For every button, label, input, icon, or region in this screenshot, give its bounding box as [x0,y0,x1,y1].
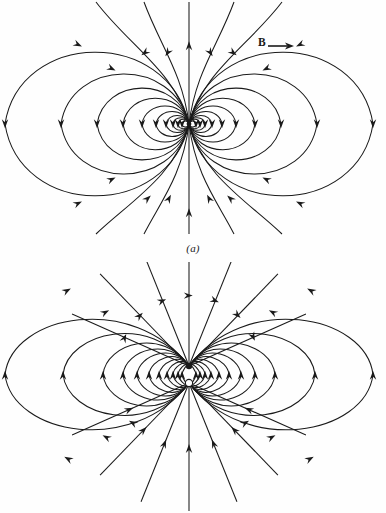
arrowhead [208,371,214,380]
arrowhead [94,119,100,128]
arrowhead [164,371,170,380]
electric-dipole-charges [185,363,192,387]
field-loop [189,74,317,174]
arrowhead [64,457,73,464]
arrowhead [106,64,115,71]
arrowhead [216,371,222,380]
arrowhead [142,195,151,203]
arrowhead [370,371,376,380]
arrowhead [163,119,169,128]
magnetic-dipole-field-diagram [0,0,386,262]
arrowhead [73,201,82,208]
magnetic-field-lines [5,2,373,234]
radial-field-line [100,274,189,366]
arrowhead [120,371,126,380]
arrowhead [202,119,208,128]
arrowhead [278,119,284,128]
arrowhead [153,119,159,128]
negative-charge-dot [186,363,192,369]
figure-panel-a: (a) B [0,0,386,262]
arrowhead [370,119,376,128]
arrowhead [146,371,152,380]
arrowhead [100,310,109,317]
figure-sheet: (a) B (b) E [0,0,386,513]
arrowhead [139,119,145,128]
arrowhead [60,371,66,380]
arrowhead [58,119,64,128]
arrowhead [304,457,313,464]
arrowhead [202,371,208,380]
arrowhead [266,435,275,442]
arrowhead [197,119,203,128]
arrowhead [238,371,244,380]
arrowhead [307,289,316,296]
radial-field-line [189,274,278,366]
arrowhead [226,371,232,380]
arrowhead [134,371,140,380]
arrowhead [175,119,181,128]
arrowhead [184,292,193,298]
arrowhead [252,371,258,380]
arrowhead [193,371,199,380]
arrowhead [175,371,181,380]
arrowhead [179,371,185,380]
arrowhead [61,289,70,296]
arrowhead [233,119,239,128]
arrowhead [296,201,305,208]
magnetic-field-symbol-label: B [258,36,266,48]
arrowhead [296,40,305,47]
arrowhead [272,371,278,380]
arrowhead [197,371,203,380]
figure-caption-a: (a) [0,242,386,254]
arrowhead [205,47,213,56]
dipole-point [187,122,192,127]
arrowhead [2,119,8,128]
arrowhead [219,119,225,128]
arrowhead [2,371,8,380]
arrowhead [312,371,318,380]
arrowhead [106,177,115,184]
arrowhead [314,119,320,128]
arrowhead [209,119,215,128]
arrowhead [165,47,173,56]
arrowhead [170,119,176,128]
magnetic-dipole-source [187,122,192,127]
field-loop [189,319,373,430]
figure-panel-b: (b) E [0,262,386,513]
positive-charge-circle [185,379,192,386]
arrowhead [170,371,176,380]
field-loop [5,319,189,430]
arrowhead [120,119,126,128]
arrowhead [141,47,150,55]
arrowhead [100,371,106,380]
arrowhead [228,47,237,55]
arrowhead [252,119,258,128]
arrowhead [227,195,236,203]
arrowhead [269,310,278,317]
arrowhead [262,64,271,71]
field-loop [61,74,189,174]
arrowhead [156,371,162,380]
arrowhead [73,40,82,47]
arrowhead [262,177,271,184]
electric-dipole-field-diagram [0,262,386,513]
arrowhead [103,435,112,442]
